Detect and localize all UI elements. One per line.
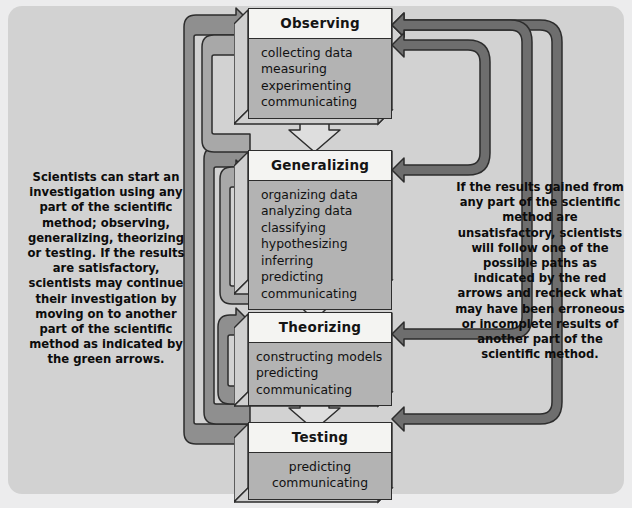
observing-item: communicating xyxy=(261,94,391,111)
theorizing-item: constructing models xyxy=(256,349,391,366)
generalizing-item: analyzing data xyxy=(261,203,391,220)
diagram-canvas: .grn { fill:#8f8f8f; stroke:#2d2d2d; str… xyxy=(0,0,632,508)
annotation-left: Scientists can start an investigation us… xyxy=(22,170,190,367)
generalizing-item: organizing data xyxy=(261,187,391,204)
green-arrow-generalizing-to-observing xyxy=(202,28,250,152)
testing-title: Testing xyxy=(249,423,391,453)
generalizing-title: Generalizing xyxy=(249,151,391,181)
generalizing-item: classifying xyxy=(261,220,391,237)
green-arrow-theorizing-to-generalizing xyxy=(220,160,250,304)
generalizing-items: organizing data analyzing data classifyi… xyxy=(249,181,391,310)
generalizing-item: communicating xyxy=(261,286,391,303)
generalizing-item: inferring xyxy=(261,253,391,270)
testing-items: predicting communicating xyxy=(249,453,391,499)
testing-item: communicating xyxy=(249,475,391,492)
theorizing-title: Theorizing xyxy=(249,313,391,343)
observing-items: collecting data measuring experimenting … xyxy=(249,39,391,118)
observing-title: Observing xyxy=(249,9,391,39)
theorizing-item: predicting xyxy=(256,365,391,382)
observing-item: collecting data xyxy=(261,45,391,62)
red-arrow-generalizing-to-observing xyxy=(392,33,490,182)
stage-theorizing[interactable]: Theorizing constructing models predictin… xyxy=(248,312,392,406)
stage-generalizing[interactable]: Generalizing organizing data analyzing d… xyxy=(248,150,392,310)
stage-observing[interactable]: Observing collecting data measuring expe… xyxy=(248,8,392,119)
theorizing-items: constructing models predicting communica… xyxy=(249,343,391,406)
generalizing-item: hypothesizing xyxy=(261,236,391,253)
stage-testing[interactable]: Testing predicting communicating xyxy=(248,422,392,500)
green-arrow-testing-to-theorizing xyxy=(218,308,250,404)
testing-item: predicting xyxy=(249,459,391,476)
observing-item: measuring xyxy=(261,61,391,78)
green-arrow-testing-to-observing xyxy=(184,8,250,444)
theorizing-item: communicating xyxy=(256,382,391,399)
generalizing-item: predicting xyxy=(261,269,391,286)
annotation-right: If the results gained from any part of t… xyxy=(455,180,625,362)
observing-item: experimenting xyxy=(261,78,391,95)
